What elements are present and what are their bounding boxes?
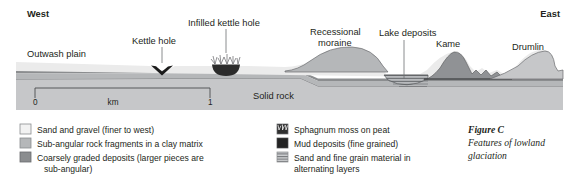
coarsely-graded-deposits-swatch <box>20 152 31 162</box>
sand-and-fine-grain-swatch <box>277 152 288 162</box>
kame-label: Kame <box>436 39 460 49</box>
legend-item-sand-and-fine-grain: Sand and fine grain material in alternat… <box>277 152 411 174</box>
legend-label-coarsely-graded-deposits: Coarsely graded deposits (larger pieces … <box>37 153 204 163</box>
drumlin <box>490 51 563 79</box>
west-label: West <box>27 9 49 19</box>
scale-unit-label: km <box>108 98 119 107</box>
lake-deposits-label: Lake deposits <box>379 28 437 38</box>
sand-and-gravel-swatch <box>20 124 31 134</box>
legend-item-sphagnum-moss-on-peat: Sphagnum moss on peat <box>277 124 390 135</box>
recessional-moraine-label-line1: Recessional <box>310 27 361 37</box>
legend-left-column: Sand and gravel (finer to west) Sub-angu… <box>20 124 204 174</box>
outwash-plain-label: Outwash plain <box>27 49 86 59</box>
legend-label-sand-and-fine-grain-cont: alternating layers <box>294 164 359 174</box>
drumlin-label: Drumlin <box>512 42 544 52</box>
legend-item-sand-and-gravel: Sand and gravel (finer to west) <box>20 124 154 135</box>
east-label: East <box>540 9 560 19</box>
scale-start-label: 0 <box>33 98 38 107</box>
legend-item-coarsely-graded-deposits: Coarsely graded deposits (larger pieces … <box>20 152 204 174</box>
recessional-moraine-label-line2: moraine <box>318 38 352 48</box>
solid-rock-label: Solid rock <box>253 91 294 101</box>
mud-deposits-swatch <box>277 138 288 148</box>
recessional-moraine <box>285 47 388 72</box>
legend-item-mud-deposits: Mud deposits (fine grained) <box>277 138 398 149</box>
figure-caption: Figure C Features of lowland glaciation <box>467 124 545 161</box>
legend-label-sand-and-gravel: Sand and gravel (finer to west) <box>37 125 154 135</box>
legend-item-sub-angular-rock-fragments: Sub-angular rock fragments in a clay mat… <box>20 138 203 149</box>
figure-caption-line1: Features of lowland <box>467 137 545 148</box>
legend-label-sand-and-fine-grain: Sand and fine grain material in <box>294 153 411 163</box>
sphagnum-moss-tufts <box>211 54 240 64</box>
figure-caption-title: Figure C <box>467 124 505 135</box>
scale-end-label: 1 <box>208 98 213 107</box>
sub-angular-rock-fragments-swatch <box>20 138 31 148</box>
legend-label-sphagnum-moss-on-peat: Sphagnum moss on peat <box>294 125 390 135</box>
kettle-hole-label: Kettle hole <box>132 36 176 46</box>
legend-label-coarsely-graded-deposits-cont: sub-angular) <box>44 164 92 174</box>
legend-label-sub-angular-rock-fragments: Sub-angular rock fragments in a clay mat… <box>37 139 203 149</box>
figure-caption-line2: glaciation <box>468 150 507 161</box>
figure-container: 0 km 1 Solid rock West East Outwash plai… <box>0 0 579 194</box>
legend-label-mud-deposits: Mud deposits (fine grained) <box>294 139 398 149</box>
legend-right-column: Sphagnum moss on peat Mud deposits (fine… <box>277 124 411 174</box>
infilled-kettle-hole-label: Infilled kettle hole <box>188 18 260 28</box>
lowland-glaciation-cross-section: 0 km 1 Solid rock West East Outwash plai… <box>0 0 579 194</box>
